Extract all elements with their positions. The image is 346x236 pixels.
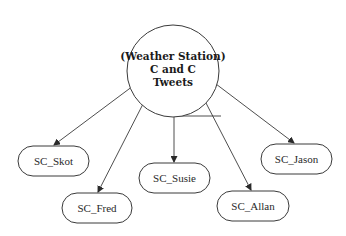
node-allan: SC_Allan: [217, 191, 289, 221]
node-susie: SC_Susie: [139, 163, 210, 193]
center-node: (Weather Station) C and C Tweets: [120, 25, 225, 117]
edge-to-fred: [98, 104, 143, 192]
node-skot: SC_Skot: [18, 146, 89, 176]
node-fred: SC_Fred: [62, 193, 132, 223]
node-jason: SC_Jason: [261, 144, 332, 174]
node-label: SC_Skot: [34, 155, 73, 167]
node-label: SC_Jason: [275, 153, 319, 165]
node-label: SC_Fred: [77, 202, 117, 214]
diagram-canvas: (Weather Station) C and C Tweets SC_Skot…: [0, 0, 346, 236]
node-label: SC_Susie: [153, 172, 196, 184]
center-node-title-line2: C and C: [150, 63, 196, 75]
center-node-title-line3: Tweets: [153, 76, 193, 88]
center-node-title-line1: (Weather Station): [120, 50, 225, 62]
node-label: SC_Allan: [231, 200, 275, 212]
edge-to-jason: [216, 84, 294, 143]
edge-to-skot: [54, 86, 133, 145]
